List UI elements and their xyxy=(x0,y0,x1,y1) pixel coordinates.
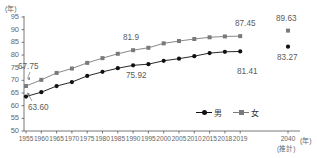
y-axis-tick-label: 55 xyxy=(5,114,19,122)
legend-entry-female: 女 xyxy=(233,107,259,118)
y-axis-tick-label: 90 xyxy=(5,26,19,34)
y-axis-tick-label: 95 xyxy=(5,13,19,21)
data-value-label: 63.60 xyxy=(28,103,49,112)
female-marker-icon xyxy=(233,109,249,117)
data-value-label: 67.75 xyxy=(18,62,39,71)
data-value-label: 89.63 xyxy=(276,14,297,23)
x-axis-projection-note: (推計) xyxy=(277,143,295,153)
x-axis-unit-label: (年) xyxy=(300,135,312,145)
x-axis-tick-label: 2040 xyxy=(277,135,299,142)
data-value-label: 75.92 xyxy=(126,71,147,80)
data-value-label: 83.27 xyxy=(277,53,298,62)
y-axis-tick-label: 50 xyxy=(5,127,19,135)
data-value-label: 81.41 xyxy=(237,67,258,76)
y-axis-tick-label: 65 xyxy=(5,89,19,97)
data-value-label: 87.45 xyxy=(235,19,256,28)
male-marker-icon xyxy=(196,109,212,117)
y-axis-tick-label: 75 xyxy=(5,64,19,72)
data-value-label: 81.9 xyxy=(123,33,139,42)
chart-legend: 男 女 xyxy=(196,107,266,118)
legend-label-female: 女 xyxy=(251,107,259,118)
x-axis-tick-label: 2019 xyxy=(229,135,251,142)
legend-label-male: 男 xyxy=(214,107,222,118)
life-expectancy-chart: (年) 95908580757065605550 195519601965197… xyxy=(0,0,317,158)
y-axis-tick-label: 60 xyxy=(5,102,19,110)
y-axis-tick-label: 70 xyxy=(5,76,19,84)
y-axis-tick-label: 85 xyxy=(5,38,19,46)
legend-entry-male: 男 xyxy=(196,107,222,118)
y-axis-tick-label: 80 xyxy=(5,51,19,59)
